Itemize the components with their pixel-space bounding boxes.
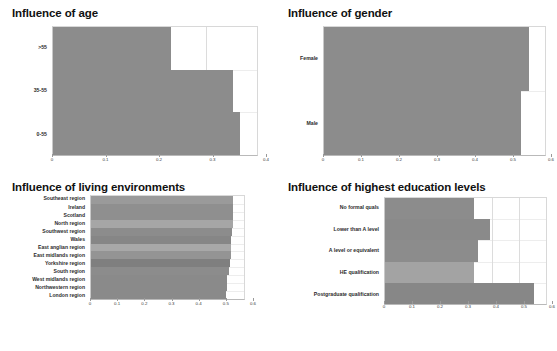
x-axis-tick-label: 0.6 [548,157,554,162]
x-axis-gender: 00.10.20.30.40.50.6 [323,157,551,169]
chart-title-gender: Influence of gender [288,7,392,19]
y-axis-tick-label: >55 [38,45,47,50]
x-axis-tick-mark [496,301,497,304]
x-axis-tick-label: 0.6 [250,301,256,306]
bar-series-living [91,196,244,299]
y-axis-tick-label: No formal quals [340,205,379,210]
y-axis-tick-label: HE qualification [340,270,379,275]
x-axis-age: 00.10.20.30.4 [52,157,266,169]
x-axis-tick-mark [226,298,227,301]
x-axis-tick-label: 0 [322,157,324,162]
y-axis-tick-label: Female [300,56,318,61]
bar [53,70,233,113]
chart-panel-education-levels: Influence of highest education levels No… [280,175,557,351]
chart-title-living-environments: Influence of living environments [12,181,185,193]
y-axis-tick-label: 35-55 [34,88,47,93]
plot-area-gender [323,26,546,156]
chart-panel-living-environments: Influence of living environments Southea… [0,175,280,351]
y-axis-labels-age: >5535-550-55 [0,26,50,156]
x-axis-tick-mark [172,298,173,301]
x-axis-tick-label: 0.2 [437,304,443,309]
y-axis-tick-label: London region [49,293,85,298]
bar [385,240,478,261]
chart-title-age: Influence of age [12,7,98,19]
x-axis-tick-label: 0.5 [510,157,516,162]
bar [324,27,529,91]
bar [91,291,226,299]
x-axis-tick-mark [106,154,107,157]
x-axis-tick-label: 0.3 [168,301,174,306]
y-axis-tick-label: Northwestern region [35,285,85,290]
x-axis-tick-label: 0.4 [493,304,499,309]
x-axis-tick-label: 0.6 [549,304,555,309]
y-axis-tick-label: North region [54,221,85,226]
y-axis-tick-label: Ireland [68,205,85,210]
plot-area-age [52,26,258,156]
y-axis-tick-label: Southeast region [43,196,85,201]
chart-title-education-levels: Influence of highest education levels [288,181,486,193]
x-axis-tick-mark [213,154,214,157]
x-axis-tick-mark [159,154,160,157]
bar [91,244,231,252]
bar [91,275,227,283]
y-axis-tick-label: Male [306,121,318,126]
x-axis-tick-label: 0.1 [114,301,120,306]
plot-wrapper-living: Southeast regionIrelandScotlandNorth reg… [0,195,272,300]
x-axis-tick-mark [253,298,254,301]
x-axis-tick-label: 0.1 [358,157,364,162]
y-axis-labels-education: No formal qualsLower than A levelA level… [280,197,382,305]
y-axis-tick-label: Lower than A level [334,227,379,232]
y-axis-tick-label: South region [54,269,85,274]
bar [91,251,231,259]
x-axis-tick-label: 0.5 [521,304,527,309]
x-axis-tick-mark [266,154,267,157]
x-axis-living: 00.10.20.30.40.50.6 [90,301,253,313]
x-axis-tick-label: 0.3 [434,157,440,162]
chart-panel-age: Influence of age >5535-550-55 00.10.20.3… [0,0,280,175]
x-axis-tick-label: 0.2 [396,157,402,162]
plot-wrapper-gender: FemaleMale [280,26,552,156]
bar [91,259,230,267]
x-axis-tick-label: 0 [51,157,53,162]
y-axis-tick-label: Scotland [63,213,85,218]
bar [91,220,233,228]
gridline-vertical [244,196,245,299]
bar [91,196,233,204]
bar [91,236,231,244]
x-axis-tick-label: 0.5 [223,301,229,306]
bar [385,198,474,219]
x-axis-tick-label: 0.1 [102,157,108,162]
x-axis-tick-mark [144,298,145,301]
bar-series-education [385,198,546,304]
y-axis-tick-label: Yorkshire region [45,261,85,266]
x-axis-tick-label: 0.4 [196,301,202,306]
x-axis-tick-label: 0.4 [263,157,269,162]
y-axis-tick-label: West midlands region [32,277,85,282]
bar [91,283,227,291]
x-axis-tick-mark [412,301,413,304]
figure-grid: Influence of age >5535-550-55 00.10.20.3… [0,0,557,351]
x-axis-tick-label: 0.4 [472,157,478,162]
y-axis-tick-label: East midlands region [33,253,85,258]
x-axis-tick-mark [117,298,118,301]
plot-wrapper-age: >5535-550-55 [0,26,272,156]
bar [324,91,521,155]
x-axis-tick-mark [524,301,525,304]
x-axis-tick-mark [437,154,438,157]
x-axis-tick-label: 0 [89,301,91,306]
x-axis-tick-label: 0.3 [209,157,215,162]
bar [53,112,240,155]
x-axis-tick-mark [468,301,469,304]
bar [91,267,229,275]
bar [91,212,233,220]
plot-area-living [90,195,245,300]
chart-panel-gender: Influence of gender FemaleMale 00.10.20.… [280,0,557,175]
x-axis-education: 00.10.20.30.40.50.6 [384,304,552,316]
bar [91,204,233,212]
x-axis-tick-mark [513,154,514,157]
y-axis-tick-label: 0-55 [37,132,47,137]
x-axis-tick-mark [475,154,476,157]
y-axis-labels-gender: FemaleMale [280,26,321,156]
y-axis-labels-living: Southeast regionIrelandScotlandNorth reg… [0,195,88,300]
x-axis-tick-mark [552,301,553,304]
